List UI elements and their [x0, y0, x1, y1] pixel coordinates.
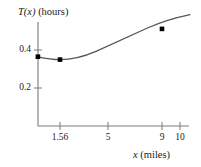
curve-T-of-x	[38, 15, 190, 60]
x-tick-label-1.56: 1.56	[44, 133, 76, 143]
x-axis-title: x (miles)	[133, 150, 170, 161]
y-tick-label-0.4: 0.4	[11, 45, 31, 55]
x-tick-label-9: 9	[152, 133, 172, 143]
x-tick-label-10: 10	[170, 133, 190, 143]
y-axis-title-unit: (hours)	[36, 6, 69, 17]
data-point-0	[36, 54, 41, 59]
y-tick-label-0.2: 0.2	[11, 83, 31, 93]
data-point-1	[58, 57, 63, 62]
x-tick-label-5: 5	[98, 133, 118, 143]
chart-figure: T(x) (hours) x (miles) 0.4 0.2 1.56 5 9 …	[0, 0, 201, 167]
y-axis-title: T(x) (hours)	[18, 7, 68, 18]
data-point-2	[160, 27, 165, 32]
x-axis-title-unit: (miles)	[138, 149, 170, 160]
y-axis-title-symbol: T(x)	[18, 6, 36, 17]
